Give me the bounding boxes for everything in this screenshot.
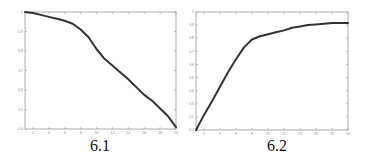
x-tick-label: 8 bbox=[80, 131, 82, 135]
x-tick-label: 18 bbox=[158, 131, 162, 135]
y-tick-label: 0.7 bbox=[18, 69, 23, 73]
y-tick-label: 0.5 bbox=[18, 108, 23, 112]
x-tick-label: 4 bbox=[219, 132, 221, 136]
x-tick-label: 14 bbox=[298, 132, 302, 136]
x-tick-label: 6 bbox=[64, 131, 66, 135]
y-tick-label: 0.9 bbox=[189, 23, 194, 27]
line-chart-6-1: 24681012141618200.40.50.60.70.80.91 bbox=[0, 0, 183, 136]
x-tick-label: 10 bbox=[95, 131, 99, 135]
y-tick-label: 0.8 bbox=[189, 36, 194, 40]
y-tick-label: 0.4 bbox=[189, 89, 194, 93]
x-tick-label: 2 bbox=[32, 131, 34, 135]
data-line bbox=[196, 23, 348, 130]
x-tick-label: 2 bbox=[203, 132, 205, 136]
data-line bbox=[25, 12, 176, 127]
x-tick-label: 18 bbox=[330, 132, 334, 136]
x-tick-label: 20 bbox=[346, 132, 350, 136]
y-tick-label: 0.9 bbox=[18, 30, 23, 34]
x-tick-label: 20 bbox=[174, 131, 178, 135]
chart-6-1: 24681012141618200.40.50.60.70.80.91 bbox=[0, 0, 183, 136]
y-tick-label: 0.1 bbox=[189, 128, 194, 132]
plot-frame bbox=[25, 12, 176, 129]
y-tick-label: 0.2 bbox=[189, 115, 194, 119]
y-tick-label: 0.7 bbox=[189, 50, 194, 54]
x-tick-label: 12 bbox=[110, 131, 114, 135]
x-tick-label: 14 bbox=[126, 131, 130, 135]
x-tick-label: 6 bbox=[235, 132, 237, 136]
x-tick-label: 12 bbox=[282, 132, 286, 136]
y-tick-label: 0.8 bbox=[18, 49, 23, 53]
x-tick-label: 16 bbox=[142, 131, 146, 135]
y-tick-label: 1 bbox=[21, 10, 23, 14]
y-tick-label: 0.5 bbox=[189, 76, 194, 80]
y-tick-label: 0.3 bbox=[189, 102, 194, 106]
y-tick-label: 1 bbox=[192, 10, 194, 14]
caption-6-2: 6.2 bbox=[247, 137, 307, 155]
line-chart-6-2: 24681012141618200.10.20.30.40.50.60.70.8… bbox=[183, 0, 367, 136]
chart-6-2: 24681012141618200.10.20.30.40.50.60.70.8… bbox=[183, 0, 367, 136]
x-tick-label: 10 bbox=[266, 132, 270, 136]
y-tick-label: 0.6 bbox=[18, 88, 23, 92]
plot-frame bbox=[196, 12, 348, 130]
x-tick-label: 8 bbox=[251, 132, 253, 136]
y-tick-label: 0.4 bbox=[18, 127, 23, 131]
y-tick-label: 0.6 bbox=[189, 63, 194, 67]
caption-6-1: 6.1 bbox=[70, 137, 130, 155]
x-tick-label: 16 bbox=[314, 132, 318, 136]
x-tick-label: 4 bbox=[48, 131, 50, 135]
